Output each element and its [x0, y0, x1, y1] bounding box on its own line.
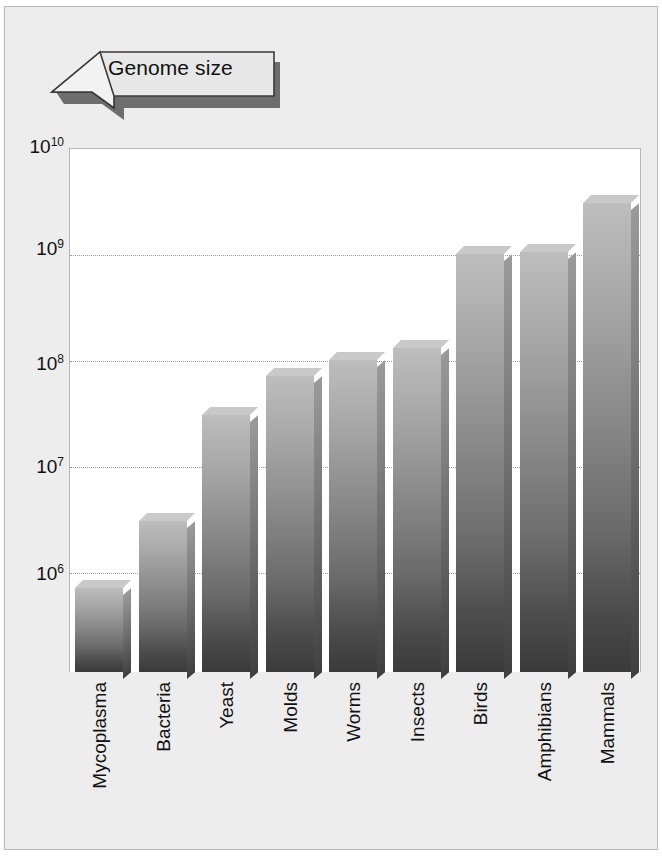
- bar-front-face: [139, 521, 187, 672]
- bar-top-face: [456, 246, 512, 254]
- y-tick-base: 10: [36, 353, 57, 374]
- bar-side-face: [441, 348, 449, 679]
- x-tick-label: Molds: [280, 682, 302, 733]
- bar: [266, 376, 314, 672]
- x-tick-label-wrap: Insects: [407, 682, 433, 842]
- y-tick-base: 10: [36, 238, 57, 259]
- x-tick-label-wrap: Yeast: [216, 682, 242, 842]
- bar: [520, 252, 568, 672]
- x-tick-label: Birds: [470, 682, 492, 725]
- y-tick-exponent: 10: [51, 135, 64, 149]
- bar-top-face: [75, 580, 131, 588]
- bar-front-face: [266, 376, 314, 672]
- x-tick-label-wrap: Worms: [343, 682, 369, 842]
- bar-side-face: [631, 204, 639, 679]
- x-tick-label: Insects: [407, 682, 429, 742]
- bar-front-face: [393, 348, 441, 672]
- y-tick-label: 109: [18, 238, 64, 260]
- x-tick-label: Mycoplasma: [89, 682, 111, 789]
- bar: [583, 203, 631, 672]
- y-tick-label: 107: [18, 456, 64, 478]
- bar: [456, 254, 504, 672]
- bars-layer: [69, 148, 641, 672]
- x-tick-label: Amphibians: [534, 682, 556, 781]
- bar-side-face: [568, 252, 576, 679]
- x-tick-label: Yeast: [216, 682, 238, 729]
- y-tick-base: 10: [36, 563, 57, 584]
- x-tick-label-wrap: Mammals: [597, 682, 623, 842]
- x-axis-labels: MycoplasmaBacteriaYeastMoldsWormsInsects…: [69, 676, 641, 846]
- bar-front-face: [202, 415, 250, 672]
- x-tick-label-wrap: Mycoplasma: [89, 682, 115, 842]
- genome-size-figure: Genome size 1010 109 108 107 106 Mycopla…: [0, 0, 662, 856]
- y-tick-label: 106: [18, 563, 64, 585]
- x-tick-label-wrap: Birds: [470, 682, 496, 842]
- bar-top-face: [202, 407, 258, 415]
- bar-top-face: [266, 368, 322, 376]
- y-tick-base: 10: [36, 456, 57, 477]
- bar: [139, 521, 187, 672]
- y-tick-exponent: 8: [57, 352, 64, 366]
- bar-front-face: [456, 254, 504, 672]
- bar-side-face: [314, 377, 322, 679]
- bar-top-face: [583, 195, 639, 203]
- x-tick-label-wrap: Molds: [280, 682, 306, 842]
- bar: [202, 415, 250, 672]
- y-tick-label: 108: [18, 353, 64, 375]
- bar-top-face: [393, 340, 449, 348]
- x-tick-label: Worms: [343, 682, 365, 742]
- bar: [329, 360, 377, 672]
- y-tick-exponent: 6: [57, 562, 64, 576]
- bar-front-face: [583, 203, 631, 672]
- bar-top-face: [139, 513, 195, 521]
- y-tick-exponent: 7: [57, 455, 64, 469]
- x-tick-label-wrap: Amphibians: [534, 682, 560, 842]
- bar-front-face: [329, 360, 377, 672]
- y-tick-label: 1010: [18, 136, 64, 158]
- bar-side-face: [377, 360, 385, 679]
- y-tick-exponent: 9: [57, 237, 64, 251]
- bar-top-face: [520, 244, 576, 252]
- bar-side-face: [250, 416, 258, 679]
- bar-front-face: [520, 252, 568, 672]
- bar-top-face: [329, 352, 385, 360]
- genome-size-callout: Genome size: [30, 46, 280, 120]
- bar: [393, 348, 441, 672]
- callout-label: Genome size: [108, 56, 233, 80]
- x-tick-label: Bacteria: [153, 682, 175, 752]
- x-tick-label-wrap: Bacteria: [153, 682, 179, 842]
- y-tick-base: 10: [30, 136, 51, 157]
- x-tick-label: Mammals: [597, 682, 619, 764]
- bar-side-face: [123, 589, 131, 679]
- bar: [75, 588, 123, 672]
- bar-front-face: [75, 588, 123, 672]
- bar-side-face: [504, 254, 512, 679]
- bar-side-face: [187, 522, 195, 679]
